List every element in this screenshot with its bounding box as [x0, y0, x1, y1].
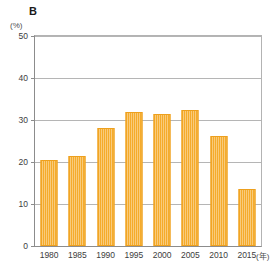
bar: [154, 114, 171, 246]
y-axis-tick-label: 10: [19, 200, 28, 209]
y-axis-tick-label: 30: [19, 116, 28, 125]
x-axis-unit-label: (年): [256, 252, 269, 261]
x-axis-tick-label: 2005: [181, 251, 200, 260]
chart-figure: B (%) 01020304050 1980198519901995200020…: [0, 0, 277, 270]
y-axis-tick-label: 40: [19, 74, 28, 83]
x-axis-tick-label: 1985: [68, 251, 87, 260]
bar: [97, 128, 114, 246]
bar: [182, 110, 199, 246]
x-axis-tick-label: 1990: [96, 251, 115, 260]
bar-slot: 2015: [233, 36, 261, 246]
y-axis-tick-label: 20: [19, 158, 28, 167]
panel-label: B: [29, 5, 37, 17]
bar-series: 19801985199019952000200520102015: [35, 36, 261, 246]
bar: [238, 189, 255, 246]
bar-slot: 1985: [63, 36, 91, 246]
plot-area: 01020304050 1980198519901995200020052010…: [34, 35, 262, 247]
x-axis-tick-label: 2000: [153, 251, 172, 260]
bar: [41, 160, 58, 246]
bar-slot: 2000: [148, 36, 176, 246]
bar-slot: 1995: [120, 36, 148, 246]
bar-slot: 1990: [92, 36, 120, 246]
bar: [125, 112, 142, 246]
x-axis-tick-label: 2015: [237, 251, 256, 260]
x-axis-tick-label: 1980: [40, 251, 59, 260]
y-axis-unit-label: (%): [10, 21, 22, 30]
x-axis-tick-label: 1995: [124, 251, 143, 260]
bar-slot: 1980: [35, 36, 63, 246]
bar-slot: 2005: [176, 36, 204, 246]
bar: [210, 136, 227, 246]
bar-slot: 2010: [205, 36, 233, 246]
bar: [69, 156, 86, 246]
x-axis-tick-label: 2010: [209, 251, 228, 260]
y-axis-tick-label: 50: [19, 32, 28, 41]
y-axis-tick-label: 0: [23, 242, 28, 251]
